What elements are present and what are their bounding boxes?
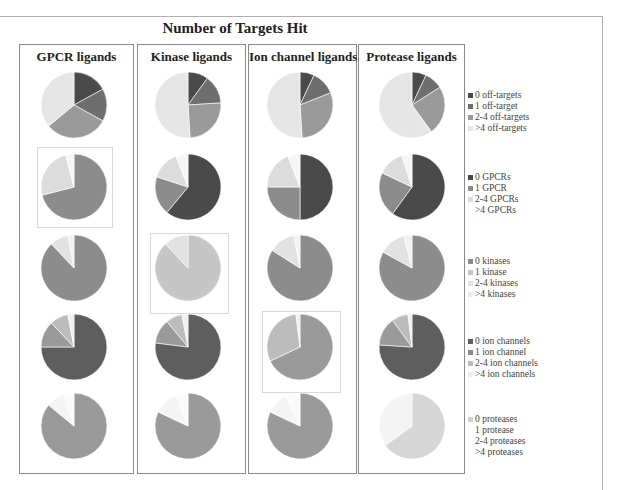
legend-item: 0 GPCRs (468, 172, 519, 183)
legend-item: >4 proteases (468, 447, 525, 458)
pie-chart (155, 235, 221, 301)
pie-slice (267, 72, 302, 138)
pie-chart (41, 235, 107, 301)
legend-swatch (468, 115, 473, 120)
legend-swatch (468, 175, 473, 180)
legend-kinases: 0 kinases 1 kinase 2-4 kinases >4 kinase… (468, 256, 518, 300)
legend-item: >4 off-targets (468, 123, 529, 134)
legend-swatch (468, 270, 473, 275)
legend-item: 2-4 ion channels (468, 358, 538, 369)
legend-swatch (468, 350, 473, 355)
pie-chart (267, 154, 333, 220)
pie-chart (155, 314, 221, 380)
legend-swatch (468, 259, 473, 264)
legend-off-targets: 0 off-targets 1 off-target 2-4 off-targe… (468, 90, 529, 134)
pie-chart (155, 154, 221, 220)
legend-ion-channels: 0 ion channels 1 ion channel 2-4 ion cha… (468, 336, 538, 380)
legend-item: 0 ion channels (468, 336, 538, 347)
legend-proteases: 0 proteases 1 protease 2-4 proteases >4 … (468, 414, 525, 458)
pie-chart (267, 314, 333, 380)
legend-item: 0 kinases (468, 256, 518, 267)
legend-swatch (468, 417, 473, 422)
pie-chart (41, 72, 107, 138)
pie-chart (155, 72, 221, 138)
pie-chart (267, 72, 333, 138)
legend-item: >4 kinases (468, 289, 518, 300)
legend-swatch (468, 104, 473, 109)
legend-item: 1 GPCR (468, 183, 519, 194)
pie-chart (379, 393, 445, 459)
legend-item: 1 protease (468, 425, 525, 436)
pie-chart (267, 393, 333, 459)
legend-swatch (468, 186, 473, 191)
legend-item: 1 ion channel (468, 347, 538, 358)
legend-item: 2-4 proteases (468, 436, 525, 447)
legend-swatch (468, 428, 473, 433)
pie-slice (300, 154, 333, 220)
pie-slice (267, 187, 300, 220)
legend-swatch (468, 292, 473, 297)
legend-item: 2-4 off-targets (468, 112, 529, 123)
pie-chart (379, 72, 445, 138)
legend-swatch (468, 439, 473, 444)
legend-swatch (468, 93, 473, 98)
legend-swatch (468, 361, 473, 366)
legend-item: 2-4 kinases (468, 278, 518, 289)
pie-slice (188, 103, 221, 138)
legend-swatch (468, 208, 473, 213)
legend-swatch (468, 339, 473, 344)
legend-item: 0 off-targets (468, 90, 529, 101)
legend-swatch (468, 281, 473, 286)
pie-chart (379, 154, 445, 220)
legend-item: >4 GPCRs (468, 205, 519, 216)
pie-slice (155, 72, 190, 138)
legend-item: 1 off-target (468, 101, 529, 112)
legend-item: 1 kinase (468, 267, 518, 278)
legend-swatch (468, 126, 473, 131)
legend-gpcrs: 0 GPCRs 1 GPCR 2-4 GPCRs >4 GPCRs (468, 172, 519, 216)
pie-chart (379, 235, 445, 301)
pie-chart (41, 393, 107, 459)
legend-swatch (468, 197, 473, 202)
pie-chart (267, 235, 333, 301)
legend-item: 0 proteases (468, 414, 525, 425)
legend-item: 2-4 GPCRs (468, 194, 519, 205)
pie-chart (155, 393, 221, 459)
pie-chart (41, 314, 107, 380)
legend-swatch (468, 450, 473, 455)
pie-chart (379, 314, 445, 380)
legend-item: >4 ion channels (468, 369, 538, 380)
pie-chart (41, 154, 107, 220)
legend-swatch (468, 372, 473, 377)
